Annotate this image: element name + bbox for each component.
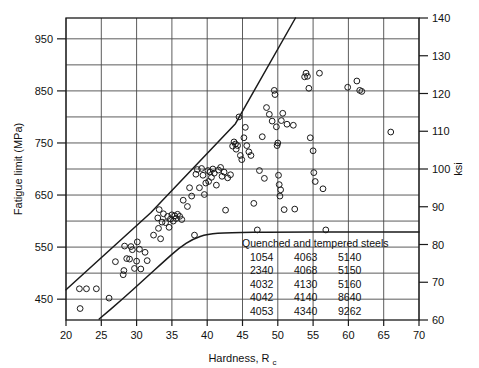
- x-axis: 2025303540455055606570: [60, 320, 425, 341]
- x-axis-title-text: Hardness, R: [208, 352, 272, 364]
- y-axis-tick-label: 450: [35, 293, 53, 305]
- data-point-marker: [306, 85, 312, 91]
- y-axis-tick-label: 550: [35, 241, 53, 253]
- data-point-marker: [272, 92, 278, 98]
- data-point-marker: [200, 172, 206, 178]
- y-axis-right-tick-label: 100: [432, 163, 450, 175]
- data-point-marker: [197, 185, 203, 191]
- data-point-marker: [213, 182, 219, 188]
- data-point-marker: [77, 306, 83, 312]
- data-point-marker: [266, 111, 272, 117]
- legend-steel-grade: 4068: [294, 264, 318, 276]
- x-axis-tick-label: 25: [95, 329, 107, 341]
- data-point-marker: [77, 286, 83, 292]
- data-point-marker: [320, 186, 326, 192]
- data-point-marker: [259, 134, 265, 140]
- x-axis-tick-label: 65: [378, 329, 390, 341]
- y-axis-right-tick-label: 120: [432, 88, 450, 100]
- x-axis-tick-label: 40: [201, 329, 213, 341]
- y-axis-right-tick-label: 130: [432, 50, 450, 62]
- x-axis-tick-label: 35: [166, 329, 178, 341]
- upper-bound-line: [66, 18, 295, 290]
- y-axis-left: 450550650750850950: [35, 33, 66, 305]
- y-axis-right-tick-label: 140: [432, 12, 450, 24]
- data-point-marker: [276, 172, 282, 178]
- data-point-marker: [122, 243, 128, 249]
- data-point-marker: [185, 204, 191, 210]
- data-point-marker: [284, 121, 290, 127]
- data-point-marker: [280, 110, 286, 116]
- data-point-marker: [189, 193, 195, 199]
- data-point-marker: [166, 224, 172, 230]
- fatigue-limit-hardness-chart: 4505506507508509506070809010011012013014…: [0, 0, 479, 368]
- data-point-marker: [138, 266, 144, 272]
- data-point-marker: [311, 170, 317, 176]
- chart-svg: 4505506507508509506070809010011012013014…: [0, 0, 479, 368]
- data-point-marker: [121, 268, 127, 274]
- legend-steel-grade: 2340: [250, 264, 274, 276]
- data-point-marker: [241, 135, 247, 141]
- y-axis-right-title: ksi: [452, 162, 464, 175]
- data-point-marker: [388, 129, 394, 135]
- y-axis-tick-label: 750: [35, 137, 53, 149]
- data-point-marker: [142, 249, 148, 255]
- data-point-marker: [106, 295, 112, 301]
- data-point-marker: [261, 175, 267, 181]
- x-axis-tick-label: 60: [342, 329, 354, 341]
- x-axis-tick-label: 20: [60, 329, 72, 341]
- x-axis-title-full: Hardness, R c: [208, 352, 276, 367]
- data-point-marker: [134, 239, 140, 245]
- legend-steel-grade: 5150: [338, 264, 362, 276]
- legend-steel-grade: 5140: [338, 251, 362, 263]
- legend-steel-grade: 4340: [294, 305, 318, 317]
- gridlines: [66, 18, 419, 320]
- data-point-marker: [201, 192, 207, 198]
- legend-steel-grade: 5160: [338, 278, 362, 290]
- legend-steel-grade: 8640: [338, 291, 362, 303]
- data-point-marker: [257, 168, 263, 174]
- data-point-marker: [187, 185, 193, 191]
- data-point-marker: [158, 236, 164, 242]
- data-point-marker: [180, 197, 186, 203]
- x-axis-tick-label: 50: [272, 329, 284, 341]
- legend-steel-grade: 4130: [294, 278, 318, 290]
- data-point-marker: [161, 211, 167, 217]
- legend-steel-grade: 4053: [250, 305, 274, 317]
- legend-title: Quenched and tempered steels: [242, 237, 389, 249]
- data-point-marker: [93, 286, 99, 292]
- legend-steel-grade: 9262: [338, 305, 362, 317]
- y-axis-tick-label: 650: [35, 189, 53, 201]
- data-point-marker: [264, 105, 270, 111]
- y-axis-right: 60708090100110120130140: [419, 12, 450, 326]
- legend-steel-grade: 1054: [250, 251, 274, 263]
- x-axis-title-subscript: c: [273, 358, 277, 367]
- data-point-marker: [156, 225, 162, 231]
- data-point-marker: [223, 207, 229, 213]
- data-point-marker: [354, 78, 360, 84]
- data-point-marker: [251, 200, 257, 206]
- y-axis-tick-label: 850: [35, 85, 53, 97]
- y-axis-right-tick-label: 110: [432, 125, 450, 137]
- data-point-marker: [278, 187, 284, 193]
- y-axis-tick-label: 950: [35, 33, 53, 45]
- data-point-marker: [192, 232, 198, 238]
- legend-steel-grade: 4032: [250, 278, 274, 290]
- y-axis-right-tick-label: 80: [432, 239, 444, 251]
- y-axis-right-tick-label: 60: [432, 314, 444, 326]
- data-point-marker: [317, 70, 323, 76]
- data-point-marker: [244, 143, 250, 149]
- x-axis-tick-label: 55: [307, 329, 319, 341]
- data-point-marker: [290, 122, 296, 128]
- data-point-marker: [242, 124, 248, 130]
- legend: Quenched and tempered steels105423404032…: [242, 237, 389, 317]
- legend-steel-grade: 4140: [294, 291, 318, 303]
- data-point-marker: [269, 118, 275, 124]
- data-point-marker: [281, 207, 287, 213]
- legend-steel-grade: 4063: [294, 251, 318, 263]
- data-point-marker: [345, 84, 351, 90]
- data-point-marker: [273, 124, 279, 130]
- legend-steel-grade: 4042: [250, 291, 274, 303]
- data-point-marker: [359, 89, 365, 95]
- y-axis-title: Fatigue limit (MPa): [12, 123, 24, 215]
- data-point-marker: [209, 174, 215, 180]
